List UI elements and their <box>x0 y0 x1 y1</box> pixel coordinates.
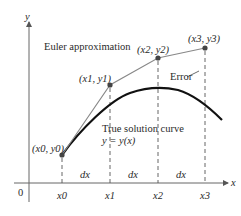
error-label: Error <box>170 71 193 82</box>
euler-label: Euler approximation <box>44 41 131 52</box>
point-label-3: (x3, y3) <box>188 33 221 45</box>
true-curve-label: True solution curve <box>102 123 184 134</box>
point-label-2: (x2, y2) <box>137 44 170 56</box>
tick-x1: x1 <box>104 190 115 201</box>
interval-label-3: dx <box>176 169 186 180</box>
interval-label-1: dx <box>80 169 90 180</box>
true-curve-equation: y = y(x) <box>101 135 136 147</box>
tick-x3: x3 <box>199 190 210 201</box>
point-label-1: (x1, y1) <box>79 73 112 85</box>
euler-diagram: y x 0 Euler approximation Error True sol… <box>0 0 241 216</box>
origin-label: 0 <box>18 187 23 198</box>
y-axis-label: y <box>24 11 30 22</box>
point-label-0: (x0, y0) <box>32 143 65 155</box>
tick-x2: x2 <box>152 190 164 201</box>
interval-label-2: dx <box>128 169 138 180</box>
true-solution-curve <box>62 88 222 155</box>
x-axis-label: x <box>230 177 236 188</box>
tick-x0: x0 <box>56 190 68 201</box>
